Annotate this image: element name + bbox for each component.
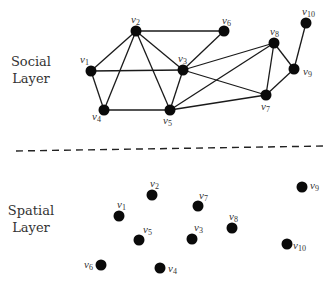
social-node-label-v6: v6 [222, 14, 231, 28]
spatial-node-label-v9: v9 [310, 179, 319, 193]
spatial-nodes: v1v2v3v4v5v6v7v8v9v10 [84, 177, 319, 276]
social-node-label-v10: v10 [302, 5, 315, 19]
spatial-node-label-v7: v7 [199, 189, 208, 203]
spatial-node-v4 [155, 263, 166, 274]
social-layer-label-line2: Layer [12, 71, 50, 86]
social-node-label-v1: v1 [80, 53, 89, 67]
social-layer-label-line1: Social [11, 54, 51, 69]
social-node-v9 [289, 64, 300, 75]
spatial-node-v3 [187, 234, 198, 245]
spatial-node-label-v5: v5 [143, 223, 152, 237]
spatial-node-v6 [96, 260, 107, 271]
social-layer: Social Layer v1v2v3v4v5v6v7v8v9v10 [11, 5, 315, 128]
social-edge-v9-v7 [266, 69, 294, 95]
spatial-node-label-v4: v4 [168, 262, 177, 276]
social-node-label-v2: v2 [131, 13, 140, 27]
social-node-v10 [301, 18, 312, 29]
spatial-node-v5 [134, 235, 145, 246]
spatial-layer: Spatial Layer v1v2v3v4v5v6v7v8v9v10 [8, 177, 319, 276]
spatial-node-v9 [297, 182, 308, 193]
social-edge-v1-v3 [91, 70, 183, 71]
spatial-node-label-v8: v8 [229, 210, 238, 224]
social-node-v4 [99, 105, 110, 116]
social-edge-v1-v4 [91, 71, 104, 110]
social-edge-v3-v7 [183, 70, 266, 95]
spatial-layer-label-line1: Spatial [8, 203, 54, 218]
social-node-label-v9: v9 [303, 65, 312, 79]
social-edge-v9-v10 [294, 23, 306, 69]
social-node-v2 [131, 26, 142, 37]
spatial-node-v10 [282, 239, 293, 250]
spatial-node-v7 [193, 201, 204, 212]
spatial-node-label-v1: v1 [117, 198, 126, 212]
spatial-node-v1 [114, 211, 125, 222]
social-node-label-v8: v8 [270, 25, 279, 39]
social-edge-v5-v8 [170, 43, 274, 110]
spatial-node-label-v10: v10 [293, 239, 306, 253]
social-edge-v1-v2 [91, 31, 136, 71]
multilayer-network-diagram: Social Layer v1v2v3v4v5v6v7v8v9v10 Spati… [0, 0, 336, 285]
social-node-v1 [86, 66, 97, 77]
spatial-node-label-v6: v6 [84, 258, 93, 272]
social-node-v3 [178, 65, 189, 76]
social-edge-v8-v7 [266, 43, 274, 95]
spatial-node-v8 [227, 223, 238, 234]
social-node-label-v3: v3 [178, 52, 187, 66]
social-node-v7 [261, 90, 272, 101]
spatial-node-v2 [147, 190, 158, 201]
social-edge-v3-v5 [170, 70, 183, 110]
spatial-node-label-v3: v3 [194, 221, 203, 235]
social-edge-v2-v3 [136, 31, 183, 70]
spatial-layer-label-line2: Layer [12, 220, 50, 235]
layer-divider-dashed-line [16, 146, 326, 151]
spatial-node-label-v2: v2 [150, 177, 159, 191]
social-node-v8 [269, 38, 280, 49]
social-node-label-v7: v7 [261, 100, 270, 114]
social-edge-v5-v7 [170, 95, 266, 110]
social-node-label-v5: v5 [163, 114, 172, 128]
